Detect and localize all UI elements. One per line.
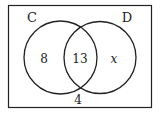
- value-d-only: x: [111, 52, 118, 66]
- value-outside: 4: [74, 93, 82, 107]
- value-intersection: 13: [72, 52, 87, 66]
- label-c: C: [27, 10, 37, 25]
- value-c-only: 8: [40, 52, 48, 66]
- venn-diagram: C D 8 13 x 4: [0, 0, 161, 113]
- label-d: D: [122, 10, 132, 25]
